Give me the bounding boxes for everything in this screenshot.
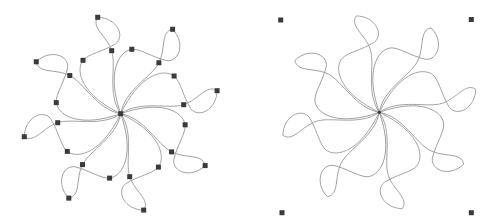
pinwheel-figure-left[interactable] [22, 15, 220, 213]
petal-inner-curve [283, 112, 379, 137]
petal [121, 114, 162, 210]
petal [311, 112, 408, 209]
petal-inner-curve [362, 27, 448, 113]
node-handle[interactable] [66, 196, 71, 201]
petal [379, 84, 476, 181]
node-handle[interactable] [34, 59, 39, 64]
node-handle[interactable] [156, 60, 161, 65]
petal-inner-curve [96, 17, 121, 113]
petal [379, 72, 475, 113]
petal [283, 112, 379, 153]
diagram-canvas [0, 0, 502, 224]
petal-inner-curve [121, 96, 207, 182]
petal-outer-curve [282, 44, 379, 141]
pinwheel-figure-right[interactable] [278, 15, 476, 215]
node-handle[interactable] [181, 102, 186, 107]
node-handle[interactable] [80, 162, 85, 167]
petal-inner-curve [379, 88, 475, 113]
node-handle[interactable] [67, 73, 72, 78]
petal-inner-curve [103, 28, 189, 114]
node-handle[interactable] [65, 149, 70, 154]
petal-inner-curve [121, 114, 146, 210]
node-handle[interactable] [129, 47, 134, 52]
node-handle[interactable] [54, 100, 59, 105]
node-handle[interactable] [81, 58, 86, 63]
petal-inner-curve [379, 95, 465, 181]
petal-inner-curve [294, 44, 380, 130]
petal-inner-curve [35, 46, 121, 132]
node-handle[interactable] [55, 120, 60, 125]
node-handle[interactable] [183, 122, 188, 127]
petal [121, 73, 217, 114]
petal-inner-curve [379, 112, 404, 208]
node-handle[interactable] [172, 74, 177, 79]
node-handle[interactable] [127, 174, 132, 179]
node-handle[interactable] [156, 165, 161, 170]
petal-inner-curve [121, 89, 217, 114]
bbox-corner-handle[interactable] [469, 17, 474, 22]
node-handle[interactable] [95, 15, 100, 20]
node-handle[interactable] [141, 208, 146, 213]
petal-outer-curve [379, 84, 476, 181]
petal-outer-curve [351, 15, 448, 112]
node-handle[interactable] [109, 48, 114, 53]
petal-outer-curve [311, 112, 408, 209]
petal-inner-curve [24, 114, 120, 139]
petal-inner-curve [355, 16, 380, 112]
petal [24, 114, 120, 155]
node-handle[interactable] [215, 88, 220, 93]
node-handle[interactable] [169, 149, 174, 154]
node-handle[interactable] [170, 27, 175, 32]
petal [379, 112, 420, 208]
bbox-corner-handle[interactable] [469, 210, 474, 215]
petal [339, 16, 380, 112]
node-handle[interactable] [203, 163, 208, 168]
petal [80, 17, 121, 113]
petal [282, 44, 379, 141]
petal-inner-curve [311, 112, 397, 198]
center-node-handle[interactable] [118, 111, 123, 116]
node-handle[interactable] [22, 134, 27, 139]
petal [351, 15, 448, 112]
center-point [378, 111, 381, 114]
bbox-corner-handle[interactable] [278, 18, 283, 23]
bbox-corner-handle[interactable] [280, 210, 285, 215]
node-handle[interactable] [107, 176, 112, 181]
petal-inner-curve [53, 114, 139, 200]
